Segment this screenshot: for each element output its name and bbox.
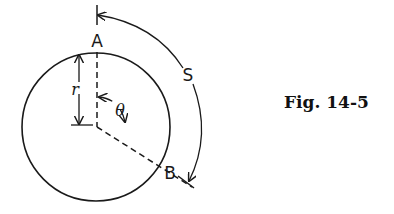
arc-length-diagram: A B S r θ Fig. 14-5 [0, 0, 394, 214]
label-radius: r [71, 80, 80, 99]
label-arc-length: S [183, 65, 194, 85]
arc-length-arrow-upper [98, 15, 183, 68]
radius-to-b-dashed [97, 127, 192, 187]
circle [22, 53, 170, 201]
label-point-b: B [164, 163, 176, 183]
arc-end-tick [178, 176, 194, 188]
label-point-a: A [91, 31, 103, 51]
arc-length-arrow-lower [189, 84, 202, 181]
label-angle: θ [115, 101, 125, 120]
figure-caption: Fig. 14-5 [284, 92, 369, 112]
